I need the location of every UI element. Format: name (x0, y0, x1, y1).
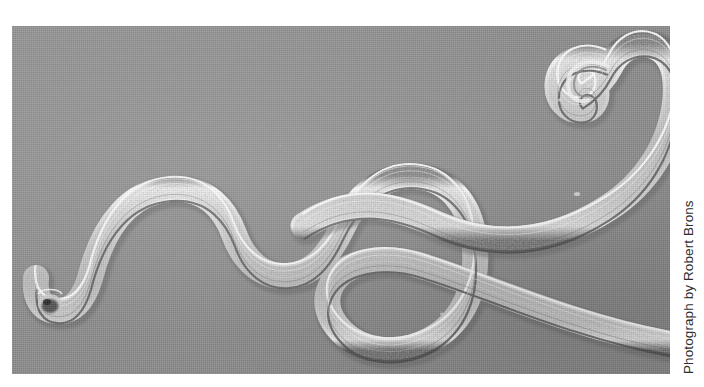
micrograph-canvas (12, 26, 670, 374)
specimen-worm-right (12, 26, 670, 374)
micrograph-image (12, 26, 670, 374)
photograph-credit: Photograph by Robert Brons (681, 200, 696, 374)
figure-plate: Photograph by Robert Brons (0, 0, 704, 387)
